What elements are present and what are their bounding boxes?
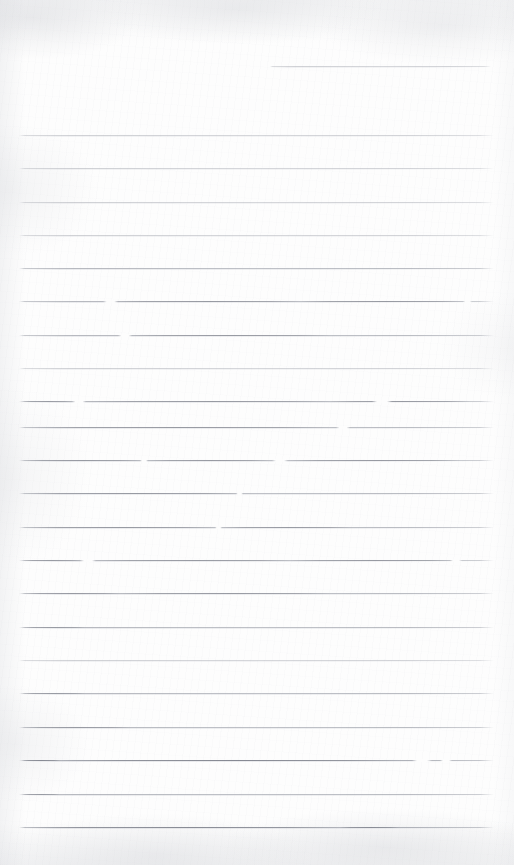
rule-line-bleed bbox=[19, 269, 494, 270]
rule-line-dark-segment bbox=[96, 560, 290, 561]
rule-line-bleed bbox=[19, 461, 494, 462]
paper-background bbox=[0, 0, 514, 865]
rule-line bbox=[19, 368, 494, 369]
rule-line-dark-segment bbox=[120, 593, 330, 594]
rule-line-bleed bbox=[19, 494, 494, 495]
rule-line-bleed bbox=[270, 67, 491, 68]
rule-line-dropout-gap bbox=[118, 334, 132, 337]
rule-line-partial bbox=[270, 66, 491, 67]
rule-line bbox=[19, 794, 494, 795]
rule-line bbox=[19, 760, 494, 761]
rule-line-bleed bbox=[19, 728, 494, 729]
rule-line bbox=[19, 427, 494, 428]
rule-line-dark-segment bbox=[22, 593, 120, 594]
rule-line-dark-segment bbox=[288, 460, 460, 461]
rule-line bbox=[19, 627, 494, 628]
rule-line-dark-segment bbox=[22, 693, 85, 694]
rule-line-dark-segment bbox=[22, 427, 330, 428]
rule-line bbox=[19, 268, 494, 269]
rule-line-bleed bbox=[19, 661, 494, 662]
rule-line-dropout-gap bbox=[440, 759, 452, 762]
rule-line-dropout-gap bbox=[336, 426, 350, 429]
rule-line bbox=[19, 235, 494, 236]
rule-line-bleed bbox=[19, 628, 494, 629]
rule-line-bleed bbox=[19, 528, 494, 529]
rule-line-bleed bbox=[19, 402, 494, 403]
rule-line-dark-segment bbox=[86, 401, 330, 402]
rule-line-bleed bbox=[19, 369, 494, 370]
rule-line-dark-segment bbox=[22, 401, 72, 402]
rule-line bbox=[19, 660, 494, 661]
rule-line-dark-segment bbox=[22, 493, 240, 494]
rule-line-dark-segment bbox=[22, 794, 60, 795]
rule-line-dark-segment bbox=[148, 460, 270, 461]
rule-line-dark-segment bbox=[290, 560, 455, 561]
rule-line-bleed bbox=[19, 694, 494, 695]
rule-line bbox=[19, 460, 494, 461]
rule-line-dark-segment bbox=[22, 627, 85, 628]
rule-line bbox=[19, 527, 494, 528]
rule-line bbox=[19, 560, 494, 561]
rule-line-dropout-gap bbox=[412, 759, 432, 762]
rule-line-bleed bbox=[19, 169, 494, 170]
rule-line bbox=[19, 827, 494, 828]
scanned-paper-page bbox=[0, 0, 514, 865]
rule-line-bleed bbox=[19, 302, 494, 303]
rule-line bbox=[19, 135, 494, 136]
rule-line-dark-segment bbox=[22, 460, 140, 461]
rule-line-bleed bbox=[19, 203, 494, 204]
rule-line-bleed bbox=[19, 428, 494, 429]
rule-line-dark-segment bbox=[22, 527, 215, 528]
rule-line-dropout-gap bbox=[103, 300, 118, 303]
rule-line-dropout-gap bbox=[80, 559, 96, 562]
rule-line-dark-segment bbox=[330, 401, 470, 402]
rule-line-dark-segment bbox=[22, 827, 340, 828]
rule-line-dropout-gap bbox=[463, 300, 472, 303]
rule-line bbox=[19, 202, 494, 203]
rule-line-dark-segment bbox=[110, 301, 300, 302]
rule-line bbox=[19, 593, 494, 594]
rule-line bbox=[19, 493, 494, 494]
rule-line-dropout-gap bbox=[72, 400, 86, 403]
rule-line bbox=[19, 168, 494, 169]
rule-line-dropout-gap bbox=[272, 459, 288, 462]
rule-line-dropout-gap bbox=[372, 400, 392, 403]
rule-line bbox=[19, 401, 494, 402]
rule-line-dark-segment bbox=[22, 727, 130, 728]
rule-line-dropout-gap bbox=[215, 526, 222, 529]
rule-line bbox=[19, 727, 494, 728]
rule-line-bleed bbox=[19, 336, 494, 337]
rule-line-bleed bbox=[19, 236, 494, 237]
rule-line-dark-segment bbox=[22, 560, 80, 561]
rule-line-dark-segment bbox=[128, 335, 330, 336]
rule-line bbox=[19, 335, 494, 336]
rule-line-dark-segment bbox=[222, 527, 350, 528]
rule-line-bleed bbox=[19, 828, 494, 829]
rule-line-bleed bbox=[19, 136, 494, 137]
rule-line-dropout-gap bbox=[450, 559, 462, 562]
rule-line-dark-segment bbox=[300, 301, 465, 302]
rule-line-bleed bbox=[19, 795, 494, 796]
rule-line bbox=[19, 301, 494, 302]
rule-line-dark-segment bbox=[340, 827, 400, 828]
rule-line-dropout-gap bbox=[236, 492, 243, 495]
rule-line-dark-segment bbox=[60, 760, 400, 761]
rule-line-dropout-gap bbox=[140, 459, 148, 462]
rule-line bbox=[19, 693, 494, 694]
rule-line-dark-segment bbox=[22, 760, 60, 761]
rule-line-bleed bbox=[19, 594, 494, 595]
